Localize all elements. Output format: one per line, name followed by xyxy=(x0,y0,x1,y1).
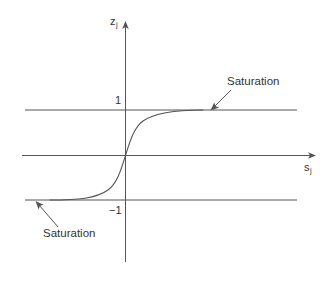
y-axis-label-base: z xyxy=(110,15,116,27)
plot-canvas xyxy=(0,0,333,282)
y-axis-label: zj xyxy=(110,16,118,29)
saturation-bottom-annotation: Saturation xyxy=(43,228,95,240)
y-axis-label-subscript: j xyxy=(116,20,118,29)
x-axis-label-subscript: j xyxy=(310,166,312,175)
y-tick-label-negative-one: −1 xyxy=(109,205,122,216)
saturation-top-leader-line xyxy=(214,90,231,107)
x-axis-label-base: s xyxy=(304,161,310,173)
saturation-bottom-leader-line xyxy=(39,205,58,227)
y-tick-label-positive-one: 1 xyxy=(115,95,121,106)
x-axis-label: sj xyxy=(304,162,312,175)
activation-function-figure: zj sj 1 −1 Saturation Saturation xyxy=(0,0,333,282)
saturation-top-annotation: Saturation xyxy=(227,76,279,88)
